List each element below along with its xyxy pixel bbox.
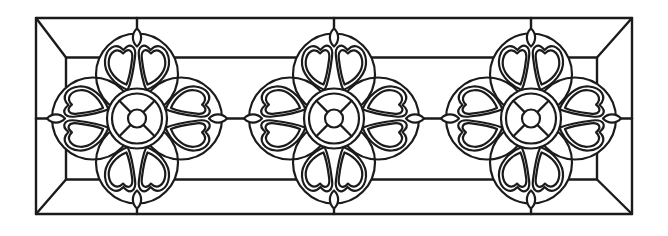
bud-leaf (603, 114, 621, 122)
hub-circle (522, 110, 540, 128)
bud-leaf (133, 29, 141, 47)
bud-group (133, 191, 141, 209)
stained-glass-svg (0, 0, 668, 236)
bud-group (441, 114, 459, 122)
bud-group (527, 191, 535, 209)
bud-group (330, 191, 338, 209)
bud-leaf (133, 191, 141, 209)
bud-leaf (441, 114, 459, 122)
bud-leaf (244, 114, 262, 122)
bud-group (527, 29, 535, 47)
bud-leaf (209, 114, 227, 122)
bud-group (133, 29, 141, 47)
bud-leaf (527, 191, 535, 209)
bud-group (603, 114, 621, 122)
hub-circle (325, 110, 343, 128)
bud-leaf (527, 29, 535, 47)
bud-leaf (47, 114, 65, 122)
bud-leaf (330, 29, 338, 47)
bud-group (47, 114, 65, 122)
bud-group (330, 29, 338, 47)
stained-glass-panel (0, 0, 668, 236)
bud-group (406, 114, 424, 122)
hub-circle (128, 110, 146, 128)
bud-leaf (406, 114, 424, 122)
bud-leaf (330, 191, 338, 209)
bud-group (244, 114, 262, 122)
bud-group (209, 114, 227, 122)
